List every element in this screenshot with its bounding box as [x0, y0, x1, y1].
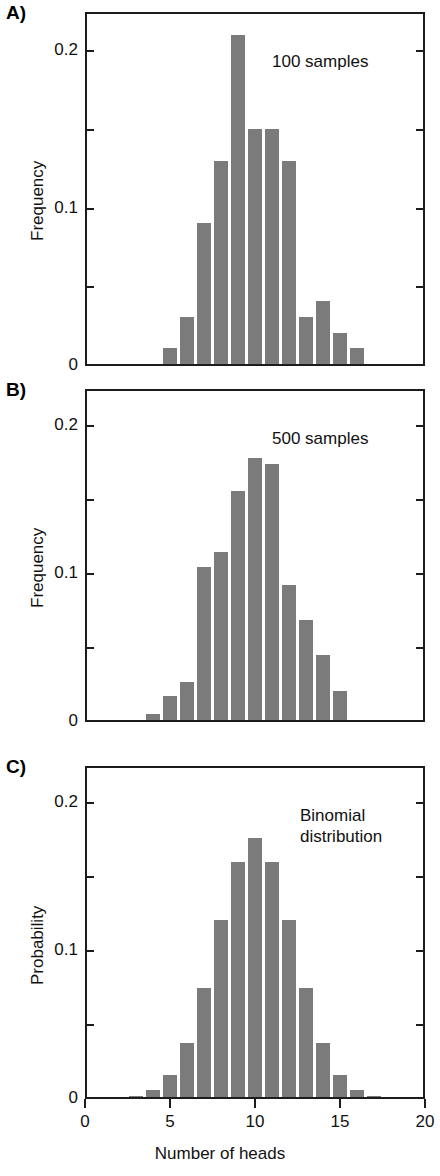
bar — [265, 464, 279, 720]
y-axis-title: Probability — [28, 905, 48, 984]
bar — [163, 696, 177, 720]
bar — [265, 862, 279, 1097]
y-tick-mark — [416, 876, 425, 878]
x-tick-mark — [84, 1099, 86, 1108]
bar — [316, 301, 330, 364]
y-tick-mark — [416, 802, 425, 804]
bar — [333, 691, 347, 720]
bar-series — [87, 14, 423, 364]
x-tick-mark — [339, 1099, 341, 1108]
y-tick-mark — [416, 647, 425, 649]
bar — [197, 223, 211, 364]
y-tick-label: 0.2 — [23, 792, 78, 812]
y-tick-mark — [416, 129, 425, 131]
panel-letter: A) — [6, 2, 26, 24]
y-tick-mark — [416, 499, 425, 501]
y-tick-mark — [85, 573, 94, 575]
bar — [146, 1090, 160, 1097]
x-tick-label: 0 — [60, 1112, 110, 1132]
bar — [316, 655, 330, 720]
bar — [282, 920, 296, 1097]
bar — [129, 1096, 143, 1098]
y-tick-mark — [416, 286, 425, 288]
bar — [299, 317, 313, 364]
y-tick-mark — [85, 802, 94, 804]
figure-binomial-sampling: A)00.10.2Frequency100 samplesB)00.10.2Fr… — [0, 0, 440, 1176]
x-tick-label: 5 — [145, 1112, 195, 1132]
y-tick-label: 0 — [23, 711, 78, 731]
y-tick-mark — [85, 286, 94, 288]
bar-series — [87, 391, 423, 720]
bar — [282, 585, 296, 720]
panel-annotation: Binomial distribution — [300, 806, 382, 847]
y-axis-title: Frequency — [28, 527, 48, 607]
y-tick-mark — [416, 1024, 425, 1026]
bar — [350, 348, 364, 364]
x-tick-mark — [424, 1099, 426, 1108]
y-tick-mark — [85, 129, 94, 131]
y-tick-mark — [416, 50, 425, 52]
bar — [231, 491, 245, 720]
bar — [214, 552, 228, 720]
y-tick-mark — [85, 950, 94, 952]
y-tick-mark — [416, 573, 425, 575]
panel-letter: B) — [6, 379, 26, 401]
bar — [180, 682, 194, 720]
y-axis-title: Frequency — [28, 161, 48, 241]
bar — [316, 1043, 330, 1097]
bar — [231, 862, 245, 1097]
bar — [180, 1043, 194, 1097]
bar — [265, 129, 279, 364]
bar — [163, 348, 177, 364]
bar — [214, 161, 228, 364]
x-tick-label: 10 — [230, 1112, 280, 1132]
bar — [299, 620, 313, 720]
plot-area — [85, 389, 425, 722]
bar — [367, 1096, 381, 1098]
y-tick-mark — [416, 208, 425, 210]
bar — [231, 35, 245, 364]
x-tick-label: 20 — [400, 1112, 440, 1132]
bar — [214, 920, 228, 1097]
x-tick-mark — [254, 1099, 256, 1108]
y-tick-mark — [416, 425, 425, 427]
bar — [146, 714, 160, 720]
panel-annotation: 500 samples — [272, 429, 368, 450]
panel-annotation: 100 samples — [272, 52, 368, 73]
bar — [350, 1090, 364, 1097]
bar — [180, 317, 194, 364]
x-axis-title: Number of heads — [0, 1144, 440, 1164]
y-tick-mark — [85, 425, 94, 427]
panel-letter: C) — [6, 756, 26, 778]
y-tick-mark — [85, 499, 94, 501]
bar — [248, 129, 262, 364]
bar — [163, 1075, 177, 1097]
y-tick-label: 0 — [23, 355, 78, 375]
bar — [299, 988, 313, 1097]
bar — [197, 567, 211, 720]
y-tick-label: 0.2 — [23, 415, 78, 435]
bar — [282, 161, 296, 364]
y-tick-label: 0.2 — [23, 40, 78, 60]
y-tick-mark — [85, 50, 94, 52]
plot-area — [85, 12, 425, 366]
x-tick-mark — [169, 1099, 171, 1108]
x-tick-label: 15 — [315, 1112, 365, 1132]
y-tick-mark — [85, 208, 94, 210]
bar — [333, 1075, 347, 1097]
y-tick-mark — [416, 950, 425, 952]
bar — [197, 988, 211, 1097]
y-tick-mark — [85, 876, 94, 878]
bar — [248, 838, 262, 1097]
y-tick-mark — [85, 1024, 94, 1026]
bar — [248, 458, 262, 720]
y-tick-mark — [85, 647, 94, 649]
bar — [333, 333, 347, 364]
y-tick-label: 0 — [23, 1088, 78, 1108]
